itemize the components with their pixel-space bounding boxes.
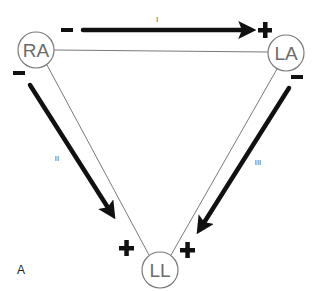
lead-iii-negative-sign bbox=[291, 75, 303, 79]
node-ll-label: LL bbox=[149, 260, 170, 281]
einthoven-triangle-diagram: I II III RA bbox=[0, 0, 324, 291]
lead-iii-label: III bbox=[255, 158, 262, 167]
lead-iii-arrow bbox=[200, 88, 289, 229]
lead-ii-positive-sign bbox=[119, 240, 134, 256]
triangle-edges bbox=[47, 50, 277, 255]
edge-ra-ll bbox=[47, 65, 149, 255]
lead-iii-positive-sign bbox=[180, 242, 195, 258]
lead-i-positive-sign bbox=[258, 22, 272, 38]
lead-iii: III bbox=[180, 75, 303, 258]
lead-ii: II bbox=[13, 71, 134, 256]
node-la: LA bbox=[268, 35, 304, 71]
lead-ii-arrow bbox=[30, 85, 112, 214]
edge-ra-la bbox=[54, 50, 268, 52]
node-ra-label: RA bbox=[23, 40, 50, 61]
node-ll: LL bbox=[142, 252, 178, 288]
node-ra: RA bbox=[18, 32, 54, 68]
panel-label: A bbox=[17, 263, 25, 277]
lead-i: I bbox=[61, 15, 272, 38]
lead-i-negative-sign bbox=[61, 28, 73, 32]
node-la-label: LA bbox=[274, 43, 298, 64]
lead-ii-label: II bbox=[55, 154, 59, 163]
lead-ii-negative-sign bbox=[13, 71, 25, 75]
diagram-svg: I II III RA bbox=[0, 0, 324, 291]
lead-i-label: I bbox=[156, 15, 158, 24]
